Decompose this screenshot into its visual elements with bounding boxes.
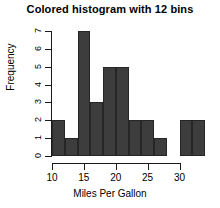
x-axis-tick [52,163,53,170]
histogram-figure: Colored histogram with 12 bins Frequency… [0,0,220,208]
y-axis-tick-label: 7 [34,25,43,37]
y-axis-tick [45,138,52,139]
y-axis-tick-label: 3 [34,96,43,108]
y-axis-tick-labels: 01234567 [30,31,44,156]
y-axis-tick-label: 5 [34,60,43,72]
y-axis-tick [45,120,52,121]
y-axis-tick [45,156,52,157]
y-axis-tick [45,102,52,103]
plot-area [52,31,205,156]
y-axis-tick-label: 1 [34,132,43,144]
histogram-bar [192,120,205,156]
histogram-bar [65,138,78,156]
x-axis-tick-label: 10 [41,172,63,183]
x-axis-tick-label: 30 [169,172,191,183]
histogram-bar [90,102,103,156]
y-axis-tick [45,67,52,68]
histogram-bar [116,67,129,156]
y-axis-tick [45,31,52,32]
x-axis-tick [84,163,85,170]
y-axis-tick [45,49,52,50]
x-axis-tick-label: 20 [105,172,127,183]
y-axis [45,31,52,156]
y-axis-tick-label: 4 [34,78,43,90]
x-axis-tick [180,163,181,170]
histogram-bar [154,138,167,156]
histogram-bar [52,120,65,156]
y-axis-tick-label: 6 [34,42,43,54]
x-axis-label: Miles Per Gallon [0,188,220,199]
y-axis-tick [45,85,52,86]
histogram-bar [78,31,91,156]
x-axis-tick [148,163,149,170]
histogram-bar [141,120,154,156]
y-axis-tick-label: 2 [34,114,43,126]
x-axis-tick [116,163,117,170]
histogram-bar [103,67,116,156]
chart-title: Colored histogram with 12 bins [0,3,220,16]
x-axis [52,163,186,170]
x-axis-tick-labels: 1015202530 [52,172,186,184]
y-axis-label: Frequency [6,27,16,107]
x-axis-tick-label: 25 [137,172,159,183]
x-axis-tick-label: 15 [73,172,95,183]
histogram-bar [180,120,193,156]
y-axis-tick-label: 0 [34,150,43,162]
histogram-bar [129,120,142,156]
